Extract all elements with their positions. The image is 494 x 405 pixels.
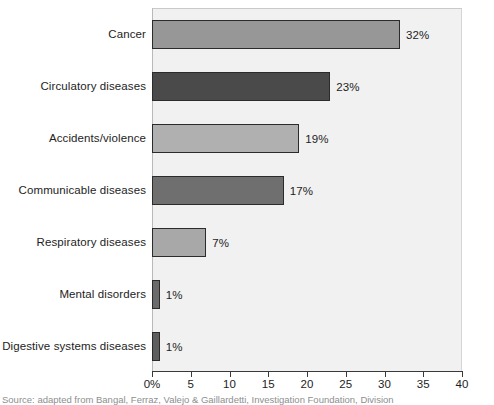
x-tick-label: 40 bbox=[456, 378, 469, 390]
x-tick-label: 10 bbox=[223, 378, 236, 390]
bar-value-label: 1% bbox=[166, 289, 183, 301]
bar-value-label: 19% bbox=[305, 133, 328, 145]
bar bbox=[152, 72, 330, 101]
source-caption-text: Source: adapted from Bangal, Ferraz, Val… bbox=[2, 396, 394, 405]
bar bbox=[152, 176, 284, 205]
bar bbox=[152, 124, 299, 153]
category-label: Respiratory diseases bbox=[37, 236, 146, 248]
x-tick-label: 5 bbox=[188, 378, 194, 390]
x-tick-mark bbox=[385, 372, 386, 377]
category-label: Mental disorders bbox=[59, 288, 146, 300]
category-label: Communicable diseases bbox=[19, 184, 146, 196]
bar bbox=[152, 280, 160, 309]
category-label: Digestive systems diseases bbox=[2, 340, 146, 352]
bar bbox=[152, 20, 400, 49]
x-tick-label: 20 bbox=[301, 378, 314, 390]
x-tick-mark bbox=[152, 372, 153, 377]
x-tick-mark bbox=[268, 372, 269, 377]
bar bbox=[152, 332, 160, 361]
category-label: Cancer bbox=[108, 28, 146, 40]
x-tick-mark bbox=[230, 372, 231, 377]
x-tick-mark bbox=[462, 372, 463, 377]
x-tick-mark bbox=[423, 372, 424, 377]
bar bbox=[152, 228, 206, 257]
bar-value-label: 17% bbox=[290, 185, 313, 197]
x-tick-label: 25 bbox=[339, 378, 352, 390]
category-label: Circulatory diseases bbox=[40, 80, 146, 92]
category-label: Accidents/violence bbox=[49, 132, 146, 144]
x-tick-label: 35 bbox=[417, 378, 430, 390]
x-tick-label: 30 bbox=[378, 378, 391, 390]
x-tick-mark bbox=[307, 372, 308, 377]
bar-value-label: 32% bbox=[406, 29, 429, 41]
category-axis-labels: CancerCirculatory diseasesAccidents/viol… bbox=[0, 8, 146, 372]
bar-value-label: 7% bbox=[212, 237, 229, 249]
x-tick-mark bbox=[191, 372, 192, 377]
x-tick-label: 0% bbox=[144, 378, 161, 390]
bar-value-label: 1% bbox=[166, 341, 183, 353]
bar-chart: CancerCirculatory diseasesAccidents/viol… bbox=[0, 0, 494, 405]
x-tick-mark bbox=[346, 372, 347, 377]
source-caption-clipped: Source: adapted from Bangal, Ferraz, Val… bbox=[0, 396, 494, 405]
bar-value-label: 23% bbox=[336, 81, 359, 93]
x-tick-label: 15 bbox=[262, 378, 275, 390]
